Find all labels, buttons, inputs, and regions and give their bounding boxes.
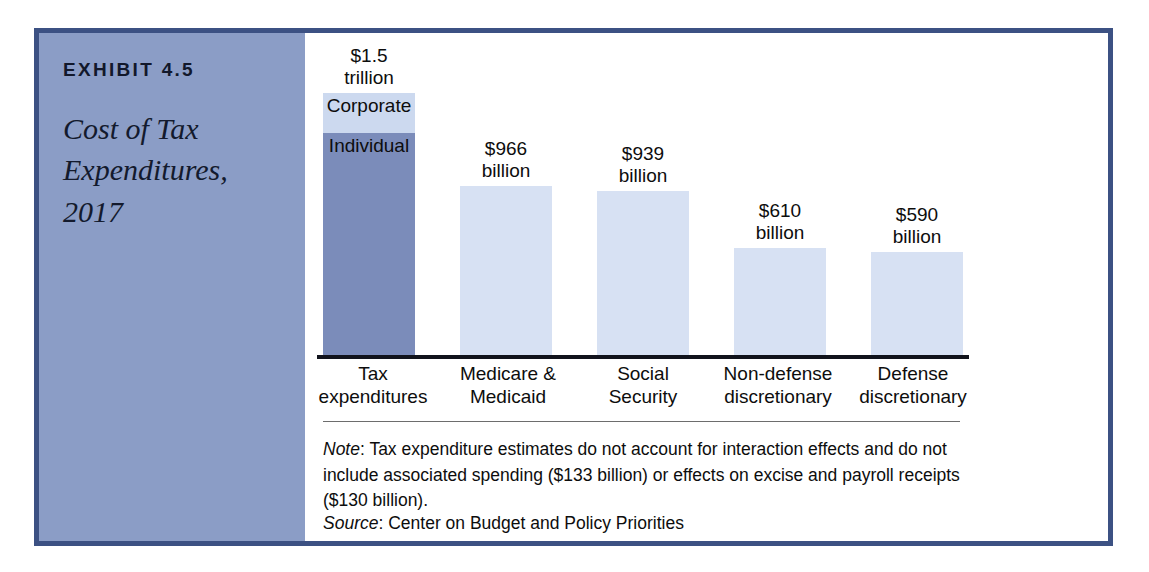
bar-group: $966 billion	[460, 45, 552, 355]
source-body: : Center on Budget and Policy Priorities	[378, 513, 683, 533]
bar	[597, 191, 689, 355]
note-footnote: Note: Tax expenditure estimates do not a…	[323, 437, 963, 514]
bar-value-label: $1.5 trillion	[344, 45, 394, 89]
plot-area: $1.5 trillionCorporateIndividual$966 bil…	[323, 45, 963, 355]
exhibit-title: Cost of Tax Expenditures, 2017	[63, 108, 278, 232]
exhibit-frame: EXHIBIT 4.5 Cost of Tax Expenditures, 20…	[34, 28, 1113, 546]
bar	[734, 248, 826, 355]
bar	[871, 252, 963, 355]
category-label: Social Security	[579, 363, 707, 409]
bar: CorporateIndividual	[323, 93, 415, 355]
bar-segment: Individual	[323, 133, 415, 355]
bar	[460, 186, 552, 355]
note-lead: Note	[323, 439, 360, 459]
exhibit-caption-panel: EXHIBIT 4.5 Cost of Tax Expenditures, 20…	[39, 33, 305, 541]
category-label: Non-defense discretionary	[714, 363, 842, 409]
axis-baseline	[317, 355, 969, 359]
exhibit-number: EXHIBIT 4.5	[63, 59, 305, 81]
bar-value-label: $610 billion	[756, 200, 805, 244]
bar-value-label: $939 billion	[619, 143, 668, 187]
bar-segment: Corporate	[323, 93, 415, 133]
category-label: Defense discretionary	[849, 363, 977, 409]
category-label: Medicare & Medicaid	[444, 363, 572, 409]
bar-group: $939 billion	[597, 45, 689, 355]
source-lead: Source	[323, 513, 378, 533]
source-footnote: Source: Center on Budget and Policy Prio…	[323, 511, 963, 536]
bar-segment-label: Corporate	[323, 95, 415, 116]
bars-row: $1.5 trillionCorporateIndividual$966 bil…	[323, 45, 963, 355]
bar-group: $610 billion	[734, 45, 826, 355]
bar-segment-label: Individual	[323, 135, 415, 156]
category-label: Tax expenditures	[309, 363, 437, 409]
bar-value-label: $966 billion	[482, 138, 531, 182]
notes-divider	[323, 421, 960, 422]
bar-value-label: $590 billion	[893, 204, 942, 248]
note-body: : Tax expenditure estimates do not accou…	[323, 439, 960, 510]
chart-panel: $1.5 trillionCorporateIndividual$966 bil…	[305, 33, 1108, 541]
bar-group: $1.5 trillionCorporateIndividual	[323, 45, 415, 355]
bar-group: $590 billion	[871, 45, 963, 355]
category-axis-labels: Tax expendituresMedicare & MedicaidSocia…	[309, 363, 977, 409]
